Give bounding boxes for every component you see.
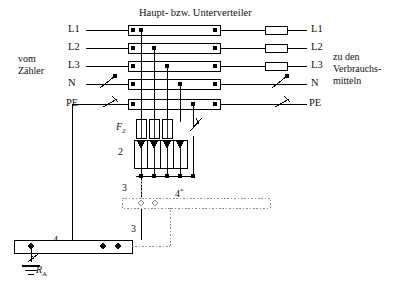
link-bar-in-n (100, 76, 115, 88)
tap-dot-l1 (139, 28, 143, 32)
incoming-links (100, 76, 118, 107)
link-node-in-n (113, 74, 117, 78)
pe-branch-link (190, 118, 202, 131)
outgoing-links (272, 76, 290, 107)
tap-dot-pe (191, 102, 195, 106)
circuit-diagram: Haupt- bzw. Unterverteiler vom Zähler zu… (0, 0, 405, 288)
busbar-l2 (128, 43, 220, 53)
collector-dot-n (178, 174, 183, 179)
collector-dot-l3 (165, 174, 170, 179)
rail-lines-outgoing (220, 30, 307, 104)
link-bar-out-pe (275, 99, 289, 107)
optional-bar-dot-upper (139, 201, 144, 206)
link-bar-out-n (272, 76, 287, 88)
link-node-out-n (285, 74, 289, 78)
busbar-dot-l1-left (131, 28, 135, 32)
schematic-canvas (0, 0, 405, 288)
collector-dot-l2 (152, 174, 157, 179)
busbar-dot-l1-right (213, 28, 217, 32)
link-bar-in-pe (103, 99, 117, 107)
earth-electrode-link (28, 254, 38, 262)
busbar-l3 (128, 61, 220, 71)
collector-dot-pe (191, 174, 196, 179)
outgoing-fuses (265, 26, 287, 70)
pe-link-bar (190, 118, 202, 131)
busbar-dot-pe-left (131, 102, 135, 106)
busbar-terminals (128, 25, 220, 109)
arrester-collector-stubs (141, 168, 180, 176)
fuse-symbol-l1 (265, 26, 287, 34)
optional-bonding-bar (122, 198, 270, 208)
tap-dot-l2 (152, 46, 156, 50)
tap-dot-l3 (165, 64, 169, 68)
fuse-symbol-l3 (265, 62, 287, 70)
busbar-dot-l3-right (213, 64, 217, 68)
optional-bar-dot-lower (153, 201, 158, 206)
busbar-pe (128, 99, 220, 109)
bonding-bar-dot-spare (115, 243, 120, 248)
busbar-dot-l3-left (131, 64, 135, 68)
bonding-bar-dot-collector (100, 243, 105, 248)
optional-bonding-network (122, 180, 270, 246)
busbar-dot-l2-left (131, 46, 135, 50)
busbar-terminal-dots (131, 28, 217, 106)
busbar-dot-n-left (131, 82, 135, 86)
earth-ground-symbol (22, 266, 40, 274)
busbar-n (128, 79, 220, 89)
tap-dot-n (178, 82, 182, 86)
rail-lines-incoming (86, 30, 128, 104)
busbar-dot-l2-right (213, 46, 217, 50)
busbar-dot-n-right (213, 82, 217, 86)
busbar-dot-pe-right (213, 102, 217, 106)
fuse-symbol-l2 (265, 44, 287, 52)
